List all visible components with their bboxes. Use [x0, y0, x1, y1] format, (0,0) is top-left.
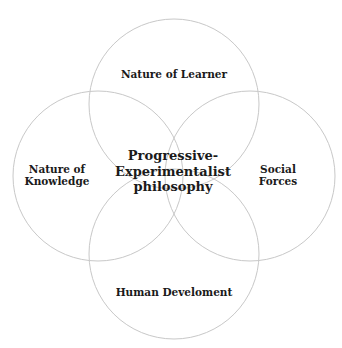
label-nature-of-knowledge: Nature of Knowledge	[22, 163, 92, 187]
label-human-development: Human Develoment	[104, 286, 244, 298]
label-nature-of-learner: Nature of Learner	[114, 68, 234, 80]
center-label-philosophy: Progressive- Experimentalist philosophy	[112, 148, 234, 195]
label-social-forces: Social Forces	[250, 163, 306, 187]
